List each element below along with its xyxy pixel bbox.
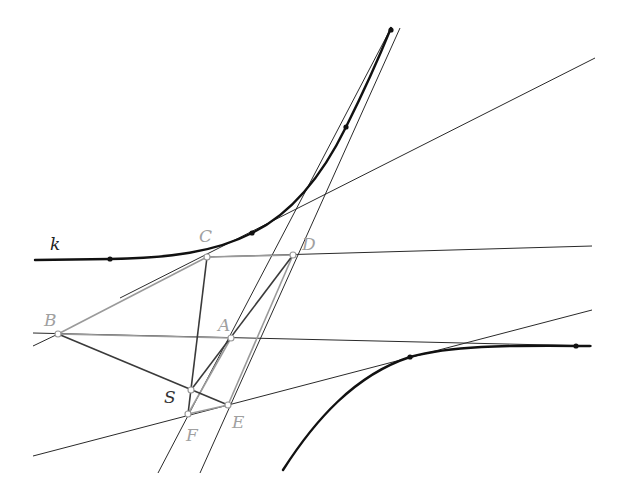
curve-point [388,27,393,32]
label-E: E [231,412,245,432]
point-C [204,254,210,260]
label-F: F [185,425,199,445]
segment-BA [58,334,231,338]
point-D [290,252,296,258]
label-B: B [43,310,57,330]
segment-BE [58,334,228,405]
label-A: A [216,315,230,335]
point-A [228,335,234,341]
segment-SD [191,255,293,390]
label-D: D [301,234,316,254]
curve-lower-branch [283,346,590,470]
tangent-line-lower [33,310,592,456]
curve-point [249,230,254,235]
segment-FA [188,338,231,414]
tangent-line-upper [120,58,595,298]
label-k: k [50,234,60,254]
curve-k-upper-branch [35,28,391,260]
curve-point [573,343,578,348]
diagram-canvas: k C D B A S E F [0,0,619,495]
curve-point [343,124,348,129]
label-S: S [164,387,176,407]
point-E [225,402,231,408]
line-B-stub [33,334,58,346]
segment-FE [188,405,228,414]
point-B [55,331,61,337]
curve-point [107,256,112,261]
curve-point [407,354,412,359]
segment-CD [207,255,293,257]
label-C: C [199,226,212,246]
point-F [185,411,191,417]
segment-BC [58,257,207,334]
point-S [188,387,194,393]
